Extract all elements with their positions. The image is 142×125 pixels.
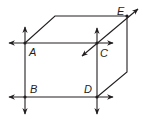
label-A: A xyxy=(28,46,36,58)
label-E: E xyxy=(117,5,125,17)
label-C: C xyxy=(100,47,108,59)
cube-edges xyxy=(25,16,127,97)
point-E xyxy=(125,14,128,17)
point-A xyxy=(23,41,26,44)
point-B xyxy=(23,95,26,98)
cube-top-face-edge xyxy=(25,16,127,43)
label-B: B xyxy=(30,83,37,95)
point-D xyxy=(95,95,98,98)
point-C xyxy=(95,41,98,44)
label-D: D xyxy=(84,83,92,95)
cube-diagram: A B C D E xyxy=(0,0,142,125)
